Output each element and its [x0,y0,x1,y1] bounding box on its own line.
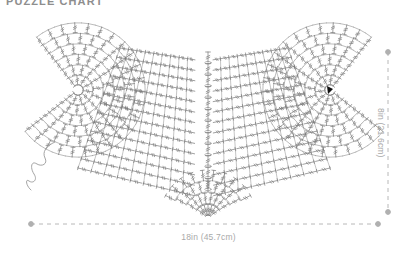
height-dimension-label: 8in (21.6cm) [376,108,386,158]
crochet-stitch-diagram [0,0,417,256]
width-dimension-label: 18in (45.7cm) [0,232,417,242]
chart-page: PUZZLE CHART 18in (45.7cm) 8in (21.6cm) [0,0,417,256]
